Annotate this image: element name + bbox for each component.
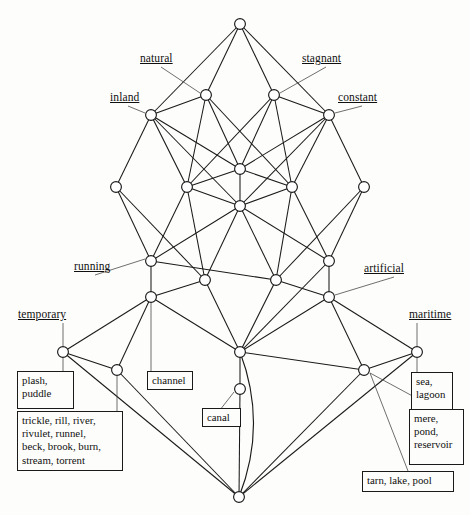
- object-leader-line: [370, 373, 408, 471]
- lattice-node[interactable]: [359, 182, 370, 193]
- lattice-edge: [240, 24, 274, 95]
- lattice-edge: [329, 187, 364, 261]
- leader-line: [335, 277, 394, 295]
- lattice-node[interactable]: [271, 275, 282, 286]
- lattice-node[interactable]: [324, 292, 335, 303]
- lattice-edge: [239, 370, 364, 497]
- attribute-label-constant: constant: [338, 91, 377, 104]
- object-box-tarn-lake-pool: tarn, lake, pool: [362, 471, 454, 492]
- lattice-edge: [116, 115, 151, 187]
- lattice-node[interactable]: [235, 384, 246, 395]
- lattice-node[interactable]: [146, 110, 157, 121]
- lattice-node[interactable]: [146, 292, 157, 303]
- lattice-node[interactable]: [287, 182, 298, 193]
- lattice-edge: [151, 280, 205, 297]
- lattice-node[interactable]: [182, 182, 193, 193]
- lattice-edge: [240, 95, 274, 169]
- lattice-node[interactable]: [412, 347, 423, 358]
- lattice-node[interactable]: [111, 182, 122, 193]
- lattice-edge: [329, 115, 364, 187]
- lattice-node[interactable]: [58, 347, 69, 358]
- lattice-edge: [239, 389, 240, 497]
- attribute-label-temporary: temporary: [18, 308, 66, 321]
- lattice-edge: [187, 95, 206, 187]
- lattice-node[interactable]: [269, 90, 280, 101]
- lattice-node[interactable]: [235, 201, 246, 212]
- lattice-edge: [364, 352, 417, 370]
- attribute-label-maritime: maritime: [409, 308, 451, 321]
- leader-line: [128, 106, 145, 113]
- concept-lattice-figure: naturalstagnantinlandconstantrunningarti…: [0, 0, 470, 515]
- lattice-node[interactable]: [235, 19, 246, 30]
- lattice-node[interactable]: [235, 347, 246, 358]
- lattice-edge: [151, 95, 206, 115]
- lattice-edge: [206, 24, 240, 95]
- lattice-node[interactable]: [234, 492, 245, 503]
- lattice-node[interactable]: [200, 275, 211, 286]
- lattice-edge: [274, 95, 292, 187]
- lattice-node[interactable]: [359, 365, 370, 376]
- attribute-label-running: running: [74, 260, 110, 273]
- lattice-node[interactable]: [324, 110, 335, 121]
- lattice-edge: [206, 95, 292, 187]
- lattice-node[interactable]: [324, 256, 335, 267]
- leader-line: [335, 106, 362, 113]
- object-box-plash-puddle: plash, puddle: [17, 371, 74, 409]
- lattice-edge: [187, 95, 274, 187]
- lattice-edge: [63, 352, 117, 370]
- object-leader-line: [222, 392, 235, 408]
- object-box-canal: canal: [202, 408, 241, 427]
- attribute-label-stagnant: stagnant: [302, 52, 341, 65]
- lattice-edge: [240, 187, 292, 206]
- lattice-edge: [240, 24, 329, 115]
- lattice-edge: [274, 95, 329, 115]
- lattice-node[interactable]: [201, 90, 212, 101]
- attribute-label-natural: natural: [140, 52, 173, 65]
- lattice-node[interactable]: [235, 164, 246, 175]
- lattice-edge: [206, 95, 240, 169]
- lattice-node[interactable]: [146, 256, 157, 267]
- object-box-trickle-group: trickle, rill, river, rivulet, runnel, b…: [17, 411, 123, 471]
- object-box-sea-lagoon: sea, lagoon: [411, 372, 453, 410]
- object-box-mere-pond-reservoir: mere, pond, reservoir: [409, 409, 464, 465]
- lattice-edge: [116, 187, 205, 280]
- attribute-label-inland: inland: [110, 91, 139, 104]
- lattice-edge: [116, 187, 151, 261]
- lattice-edge: [240, 261, 329, 352]
- object-box-channel: channel: [147, 371, 193, 390]
- lattice-edge: [187, 187, 240, 206]
- lattice-edge: [240, 352, 364, 370]
- lattice-edge: [151, 261, 276, 280]
- lattice-edge-curved: [239, 352, 254, 497]
- attribute-label-artificial: artificial: [364, 262, 404, 275]
- lattice-node[interactable]: [112, 365, 123, 376]
